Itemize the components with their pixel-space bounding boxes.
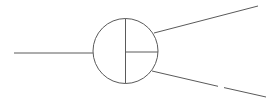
upper-right-output-line bbox=[154, 6, 258, 33]
circle-node-diagram bbox=[0, 0, 273, 105]
lower-right-output-line-segment bbox=[224, 88, 266, 97]
diagram-canvas bbox=[0, 0, 273, 105]
lower-right-output-line-segment bbox=[152, 71, 218, 86]
